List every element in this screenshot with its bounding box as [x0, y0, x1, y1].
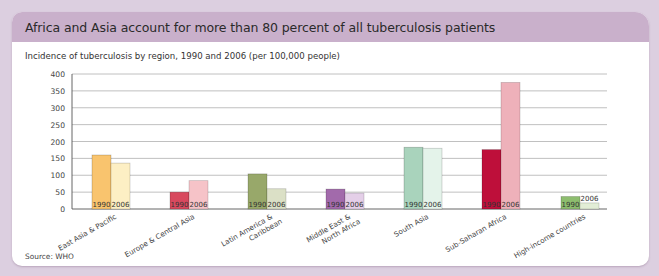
source-note: Source: WHO [25, 252, 74, 261]
bar-year-label: 1990 [93, 201, 111, 209]
bar-group: 19902006High-income countries [512, 195, 599, 260]
bar-year-label: 2006 [346, 201, 364, 209]
bar-group: 19902006Latin America &Caribbean [220, 174, 286, 256]
bar-group: 19902006Middle East &North Africa [305, 189, 364, 252]
y-tick-label: 50 [55, 188, 65, 197]
bar-year-label: 1990 [483, 201, 501, 209]
category-label: High-income countries [512, 212, 587, 260]
bar-year-label: 2006 [424, 201, 442, 209]
bar-year-label: 2006 [112, 201, 130, 209]
bar-year-label: 1990 [171, 201, 189, 209]
bar-year-label: 2006 [190, 201, 208, 209]
y-tick-label: 100 [51, 171, 66, 180]
bar-year-label: 2006 [581, 195, 599, 203]
y-tick-label: 300 [51, 104, 66, 113]
category-label: East Asia & Pacific [56, 212, 118, 253]
bar-year-label: 2006 [268, 201, 286, 209]
y-tick-label: 250 [51, 121, 66, 130]
bar-year-label: 1990 [562, 201, 580, 209]
bar-year-label: 1990 [405, 201, 423, 209]
category-label: Europe & Central Asia [123, 212, 196, 259]
bar-2006 [580, 203, 599, 209]
bar-chart: 05010015020025030035040019902006East Asi… [12, 12, 649, 266]
y-tick-label: 400 [51, 70, 66, 79]
chart-card: Africa and Asia account for more than 80… [12, 12, 649, 266]
bar-group: 19902006South Asia [392, 147, 442, 239]
bar-group: 19902006East Asia & Pacific [56, 155, 130, 253]
bar-year-label: 1990 [249, 201, 267, 209]
y-tick-label: 0 [60, 205, 65, 214]
y-tick-label: 200 [51, 138, 66, 147]
category-label: Sub-Saharan Africa [444, 212, 508, 254]
category-label: Middle East &North Africa [305, 209, 362, 252]
bar-2006 [501, 82, 520, 209]
y-tick-label: 150 [51, 154, 66, 163]
category-label: Latin America &Caribbean [220, 209, 284, 256]
bar-year-label: 2006 [502, 201, 520, 209]
y-tick-label: 350 [51, 87, 66, 96]
category-label: South Asia [392, 212, 430, 239]
bar-year-label: 1990 [327, 201, 345, 209]
